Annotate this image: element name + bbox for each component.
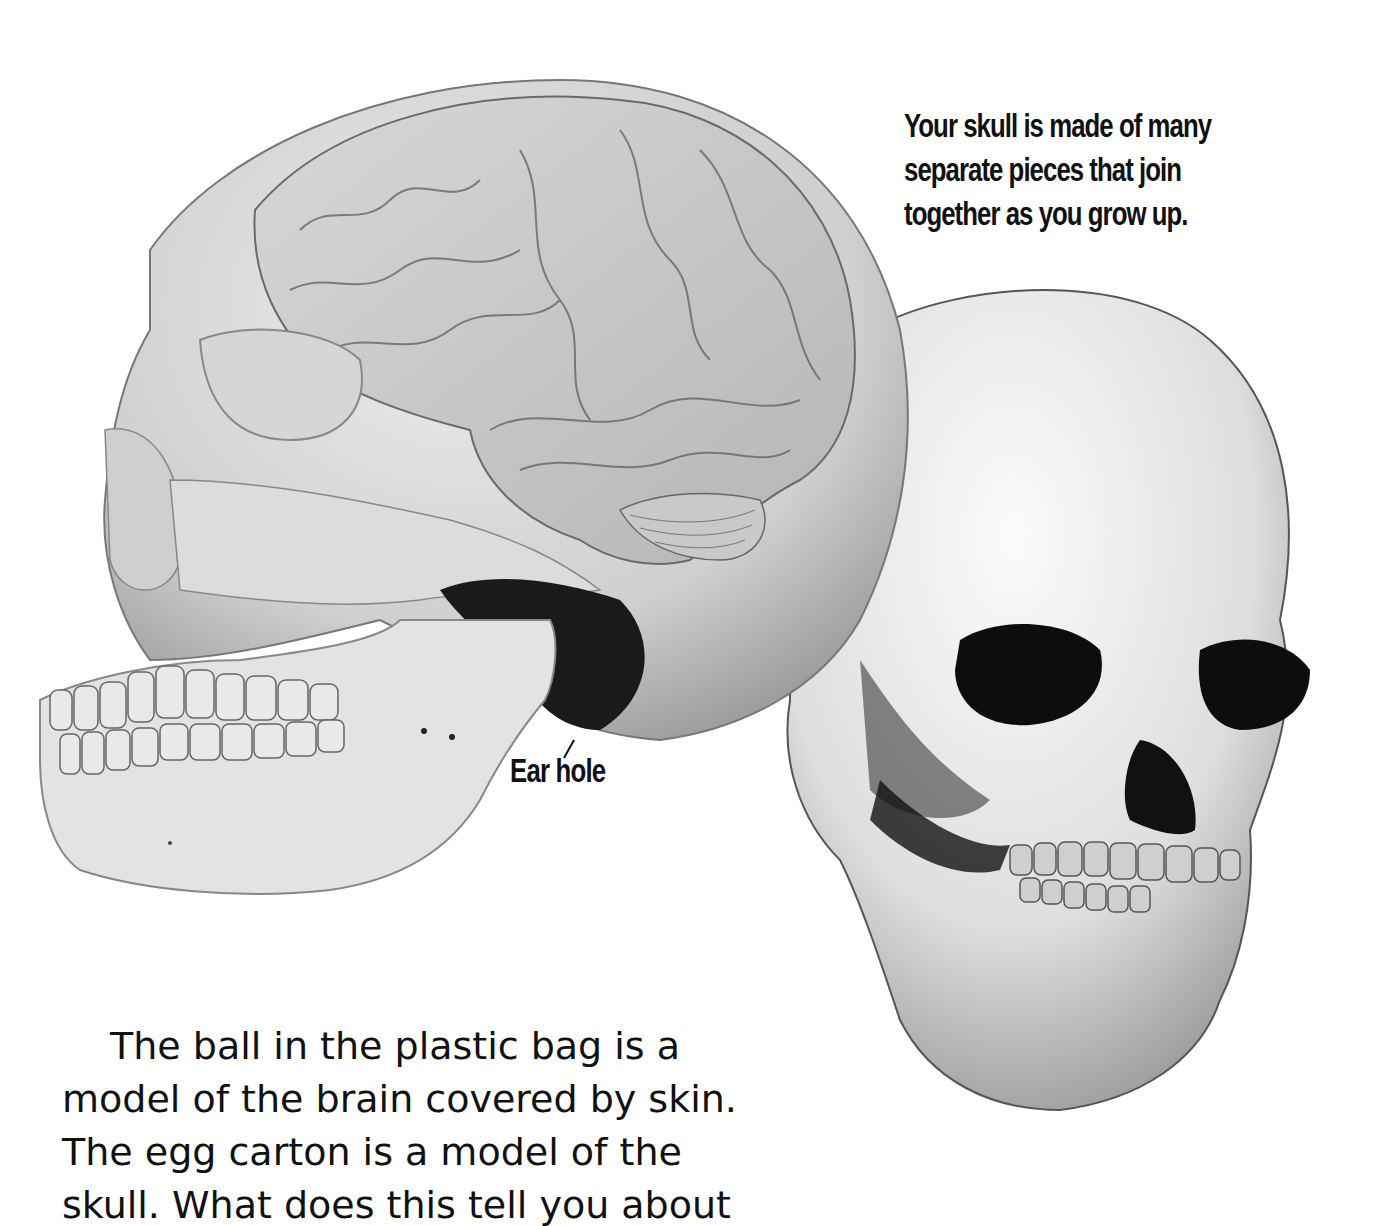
body-line: skull. What does this tell you about bbox=[62, 1179, 822, 1226]
textbook-page: Your skull is made of many separate piec… bbox=[0, 0, 1382, 1226]
body-paragraph: The ball in the plastic bag is a model o… bbox=[62, 1020, 822, 1226]
body-line: The egg carton is a model of the bbox=[62, 1126, 822, 1179]
caption-line: separate pieces that join bbox=[904, 148, 1278, 192]
figure-caption: Your skull is made of many separate piec… bbox=[904, 104, 1278, 236]
caption-line: together as you grow up. bbox=[904, 192, 1278, 236]
body-line: The ball in the plastic bag is a bbox=[62, 1020, 822, 1073]
side-skull-image bbox=[40, 80, 908, 894]
ear-hole-label: Ear hole bbox=[510, 752, 605, 790]
caption-line: Your skull is made of many bbox=[904, 104, 1278, 148]
body-line: model of the brain covered by skin. bbox=[62, 1073, 822, 1126]
